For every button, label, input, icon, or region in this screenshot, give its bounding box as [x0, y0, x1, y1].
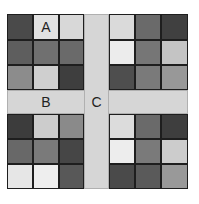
grid-cell-bottom-right: [135, 164, 161, 189]
grid-cell-bottom-left: [33, 114, 59, 139]
grid-cell-top-right: [161, 40, 188, 65]
grid-cell-bottom-right: [109, 139, 135, 164]
grid-cell-top-right: [161, 65, 188, 90]
grid-cell-top-right: [135, 65, 161, 90]
grid-cell-top-left: [59, 65, 84, 90]
label-c: C: [84, 90, 109, 114]
grid-cell-top-right: [109, 14, 135, 40]
grid-cell-bottom-right: [161, 114, 188, 139]
label-b: B: [33, 90, 59, 114]
grid-cell-bottom-left: [33, 164, 59, 189]
grid-cell-top-right: [135, 14, 161, 40]
grid-cell-top-left: [59, 40, 84, 65]
grid-cell-bottom-right: [135, 114, 161, 139]
grid-cell-bottom-right: [161, 164, 188, 189]
grid-cell-bottom-left: [7, 114, 33, 139]
grid-cell-bottom-left: [59, 164, 84, 189]
grid-cell-bottom-left: [7, 139, 33, 164]
grid-cell-bottom-left: [7, 164, 33, 189]
grid-cell-top-left: [59, 14, 84, 40]
grid-cell-top-right: [161, 14, 188, 40]
grid-cell-top-left: [7, 65, 33, 90]
grid-cell-top-right: [109, 65, 135, 90]
grid-cell-bottom-right: [161, 139, 188, 164]
grid-cell-bottom-right: [109, 164, 135, 189]
grid-cell-bottom-left: [59, 139, 84, 164]
grid-cell-top-left: [7, 40, 33, 65]
grid-cell-bottom-left: [59, 114, 84, 139]
grid-cell-bottom-left: [33, 139, 59, 164]
grid-cell-top-right: [109, 40, 135, 65]
grid-cell-top-left: [33, 40, 59, 65]
grid-cell-bottom-right: [135, 139, 161, 164]
grid-cell-top-right: [135, 40, 161, 65]
grid-cell-top-left: [33, 65, 59, 90]
grid-cell-bottom-right: [109, 114, 135, 139]
label-a: A: [33, 14, 59, 40]
grid-cell-top-left: [7, 14, 33, 40]
